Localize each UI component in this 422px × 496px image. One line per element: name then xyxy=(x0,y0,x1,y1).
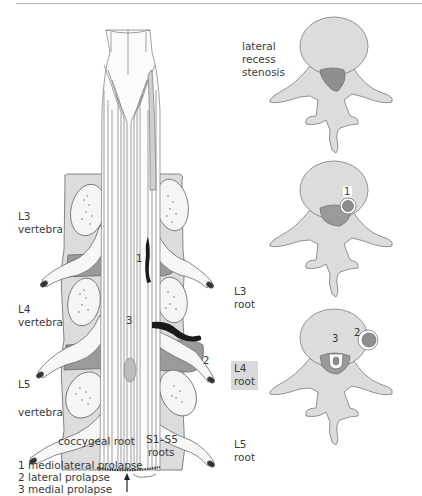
label-l4-line2: vertebra xyxy=(18,316,63,329)
spine-illustration: 1 2 3 1 3 2 xyxy=(0,0,422,496)
label-l4-vertebra: L4 vertebra xyxy=(18,303,63,329)
marker-1-left: 1 xyxy=(136,253,142,264)
label-l3-line2: vertebra xyxy=(18,223,63,236)
l4-root-line1: L4 xyxy=(234,362,255,375)
legend-item-lateral: 2 lateral prolapse xyxy=(18,471,143,483)
marker-2-left: 2 xyxy=(203,355,209,366)
label-roots: roots xyxy=(146,446,178,459)
label-s1-s5-roots: S1–S5 roots xyxy=(146,433,178,459)
l5-root-line1: L5 xyxy=(234,438,255,451)
label-l5-vertebra-line1: L5 xyxy=(18,378,31,391)
marker-1-section: 1 xyxy=(344,186,350,197)
cross-section-bottom xyxy=(270,309,392,445)
label-coccygeal-root: coccygeal root xyxy=(58,435,135,448)
legend-item-mediolateral: 1 mediolateral prolapse xyxy=(18,459,143,471)
label-l3-root: L3 root xyxy=(234,285,255,311)
stenosis-line3: stenosis xyxy=(242,66,285,79)
legend-item-medial: 3 medial prolapse xyxy=(18,483,143,495)
stenosis-line1: lateral xyxy=(242,40,285,53)
cross-section-top xyxy=(270,17,392,153)
label-lateral-recess-stenosis: lateral recess stenosis xyxy=(242,40,285,79)
label-l4-line1: L4 xyxy=(18,303,63,316)
marker-3-left: 3 xyxy=(126,315,132,326)
label-l3-line1: L3 xyxy=(18,210,63,223)
marker-3-section: 3 xyxy=(332,333,338,344)
label-l3-vertebra: L3 vertebra xyxy=(18,210,63,236)
l3-root-line2: root xyxy=(234,298,255,311)
label-s1-s5: S1–S5 xyxy=(146,433,178,446)
stenosis-line2: recess xyxy=(242,53,285,66)
label-l5-vertebra-line2: vertebra xyxy=(18,406,63,419)
legend: 1 mediolateral prolapse 2 lateral prolap… xyxy=(18,459,143,495)
label-l4-root-highlighted: L4 root xyxy=(231,361,258,390)
marker-2-section: 2 xyxy=(354,327,360,338)
label-l5-root: L5 root xyxy=(234,438,255,464)
cauda-equina xyxy=(100,30,160,470)
l4-root-line2: root xyxy=(234,375,255,388)
l5-root-line2: root xyxy=(234,451,255,464)
cross-section-middle xyxy=(270,161,392,297)
l3-root-line1: L3 xyxy=(234,285,255,298)
